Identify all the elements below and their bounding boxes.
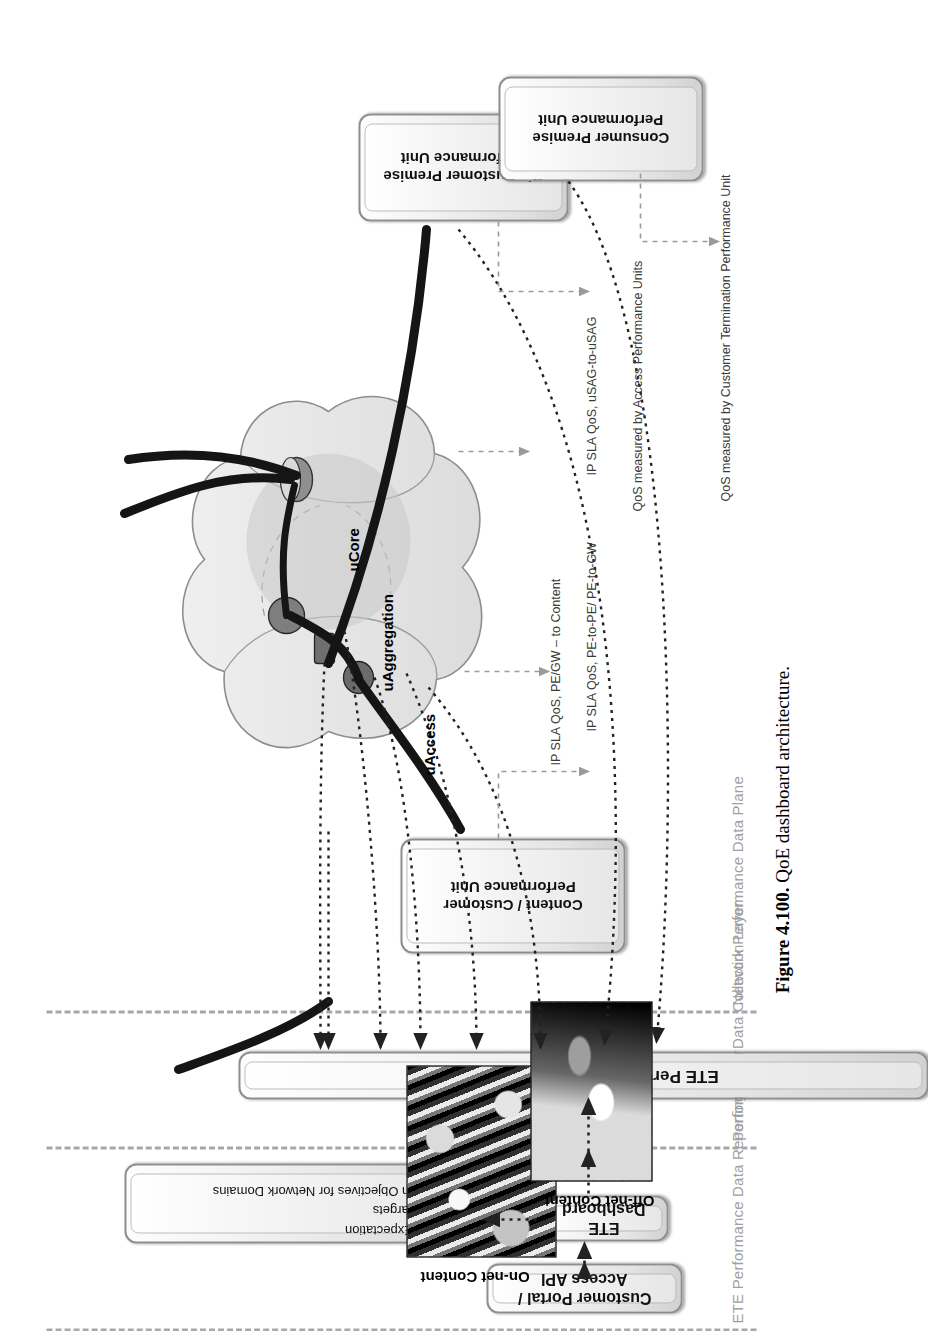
box-consumer-premise-pu-label: Consumer Premise Performance Unit xyxy=(532,111,669,146)
annotation-qos-access-performance-units: QoS measured by Access Performance Units xyxy=(630,260,644,511)
photo-off-net-content xyxy=(530,1001,652,1181)
figure-number: Figure 4.100. xyxy=(772,887,793,993)
objective-item: QoE Expectation xyxy=(122,1220,442,1240)
figure-caption: Figure 4.100. QoE dashboard architecture… xyxy=(772,666,794,993)
box-content-customer-performance-unit[interactable]: Content / Customer Performance Unit xyxy=(400,838,625,953)
annotation-qos-customer-termination: QoS measured by Customer Termination Per… xyxy=(718,174,732,501)
objective-item: SLA Targets xyxy=(122,1200,442,1220)
network-domain-label-ucore: uCore xyxy=(344,528,361,571)
annotation-ip-sla-usag-to-usag: IP SLA QoS, uSAG-to-uSAG xyxy=(584,316,598,475)
network-cloud-shape xyxy=(182,396,481,747)
annotation-ip-sla-pe-gw-to-content: IP SLA QoS, PE/GW – to Content xyxy=(548,578,562,765)
figure-caption-text: QoE dashboard architecture. xyxy=(772,666,793,883)
diagram-canvas: ETE Performance Data Reporting Layer Per… xyxy=(28,0,773,1331)
network-domain-label-uaggregation: uAggregation xyxy=(378,594,395,692)
layer-label-dataplane: Network Performance Data Plane xyxy=(728,776,745,1005)
box-consumer-premise-performance-unit[interactable]: Consumer Premise Performance Unit xyxy=(498,76,703,181)
network-node-icons xyxy=(268,457,373,693)
objective-item: Design Objectives for Network Domains xyxy=(122,1181,442,1201)
box-content-customer-pu-label: Content / Customer Performance Unit xyxy=(443,878,582,913)
photo-off-net-content-label: Off-net Content xyxy=(544,1192,654,1209)
network-domain-label-uaccess: uAccess xyxy=(420,713,437,775)
annotation-ip-sla-pe-to-pe: IP SLA QoS, PE-to-PE/ PE-to-GW xyxy=(584,542,598,731)
photo-on-net-content-label: On-net Content xyxy=(420,1268,529,1285)
annotation-leaders xyxy=(458,173,718,838)
